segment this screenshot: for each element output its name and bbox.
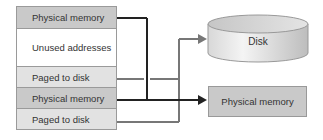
arrow-to-disk-icon [198, 34, 207, 44]
mapping-connectors [0, 0, 323, 140]
arrow-to-physical-memory-icon [198, 95, 207, 105]
physical-memory-label: Physical memory [221, 96, 293, 107]
paged-to-disk-connector [117, 39, 198, 122]
disk-label: Disk [208, 36, 308, 47]
physical-memory-box: Physical memory [208, 86, 307, 117]
physical-memory-connector [117, 18, 198, 100]
